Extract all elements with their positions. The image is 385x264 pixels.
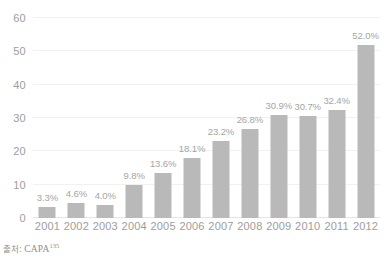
bar-group[interactable]: 13.6%	[149, 18, 178, 218]
bar-value-label: 30.7%	[294, 101, 320, 112]
x-tick-label: 2010	[295, 220, 320, 232]
bar-group[interactable]: 32.4%	[322, 18, 351, 218]
y-tick-label: 30	[13, 112, 26, 124]
bar-group[interactable]: 52.0%	[351, 18, 380, 218]
x-tick-label: 2004	[122, 220, 147, 232]
x-tick-label: 2008	[237, 220, 262, 232]
bar[interactable]	[155, 173, 172, 218]
bar[interactable]	[357, 45, 374, 218]
x-tick-label: 2007	[208, 220, 233, 232]
x-tick-label: 2003	[93, 220, 118, 232]
x-axis: 2001200220032004200520062007200820092010…	[33, 220, 380, 238]
source-note: 출처: CAPA135	[3, 242, 59, 254]
bar[interactable]	[39, 207, 56, 218]
y-tick-label: 0	[20, 212, 26, 224]
bar[interactable]	[328, 110, 345, 218]
bar[interactable]	[68, 203, 85, 218]
x-tick-label: 2009	[266, 220, 291, 232]
bar-value-label: 30.9%	[266, 100, 292, 111]
bar-group[interactable]: 23.2%	[207, 18, 236, 218]
bar[interactable]	[299, 116, 316, 218]
x-tick-label: 2006	[179, 220, 204, 232]
bars-layer: 3.3%4.6%4.0%9.8%13.6%18.1%23.2%26.8%30.9…	[33, 18, 380, 218]
x-tick-label: 2005	[150, 220, 175, 232]
bar-value-label: 52.0%	[352, 30, 378, 41]
bar[interactable]	[270, 115, 287, 218]
bar[interactable]	[241, 129, 258, 218]
y-tick-label: 20	[13, 145, 26, 157]
y-tick-label: 10	[13, 179, 26, 191]
bar-group[interactable]: 18.1%	[178, 18, 207, 218]
x-tick-label: 2011	[324, 220, 348, 232]
bar-value-label: 18.1%	[179, 143, 205, 154]
y-tick-label: 60	[13, 12, 26, 24]
x-tick-label: 2012	[353, 220, 378, 232]
source-name-label: CAPA	[24, 244, 49, 254]
bar[interactable]	[97, 205, 114, 218]
bar-value-label: 32.4%	[323, 95, 349, 106]
bar-group[interactable]: 26.8%	[235, 18, 264, 218]
bar-group[interactable]: 4.6%	[62, 18, 91, 218]
source-prefix-label: 출처:	[3, 244, 22, 254]
bar-value-label: 26.8%	[237, 114, 263, 125]
bar[interactable]	[184, 158, 201, 218]
y-axis: 0102030405060	[0, 18, 30, 218]
x-tick-label: 2001	[35, 220, 60, 232]
bar[interactable]	[212, 141, 229, 218]
bar-value-label: 3.3%	[37, 192, 58, 203]
x-tick-label: 2002	[64, 220, 89, 232]
bar-value-label: 9.8%	[124, 170, 145, 181]
bar-chart-figure: 0102030405060 3.3%4.6%4.0%9.8%13.6%18.1%…	[0, 0, 385, 264]
bar-group[interactable]: 30.7%	[293, 18, 322, 218]
bar-value-label: 23.2%	[208, 126, 234, 137]
bar-group[interactable]: 30.9%	[264, 18, 293, 218]
y-tick-label: 40	[13, 79, 26, 91]
bar-group[interactable]: 3.3%	[33, 18, 62, 218]
bar-value-label: 13.6%	[150, 158, 176, 169]
bar-group[interactable]: 9.8%	[120, 18, 149, 218]
bar-value-label: 4.6%	[66, 188, 87, 199]
bar[interactable]	[126, 185, 143, 218]
bar-group[interactable]: 4.0%	[91, 18, 120, 218]
y-tick-label: 50	[13, 45, 26, 57]
bar-value-label: 4.0%	[95, 190, 116, 201]
source-footnote-marker: 135	[50, 242, 60, 249]
